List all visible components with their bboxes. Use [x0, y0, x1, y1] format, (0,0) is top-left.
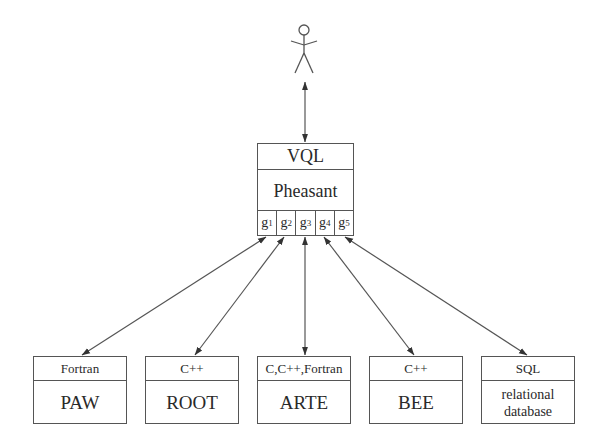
port-g1: g1 — [258, 211, 277, 235]
backend-bee: C++ BEE — [369, 356, 463, 424]
backend-language: C,C++,Fortran — [258, 357, 350, 381]
backend-language: SQL — [482, 357, 574, 381]
backend-root: C++ ROOT — [145, 356, 239, 424]
backend-name: relational database — [482, 381, 574, 424]
backend-language: Fortran — [34, 357, 126, 381]
arrow-g4-bee — [324, 237, 414, 355]
port-g5: g5 — [335, 211, 353, 235]
backend-language: C++ — [370, 357, 462, 381]
backend-language: C++ — [146, 357, 238, 381]
port-g2: g2 — [277, 211, 296, 235]
backend-name: BEE — [370, 381, 462, 424]
stick-figure-icon — [291, 25, 317, 73]
pheasant-header-vql: VQL — [258, 144, 353, 170]
port-g4: g4 — [316, 211, 335, 235]
pheasant-ports-row: g1 g2 g3 g4 g5 — [258, 210, 353, 235]
arrow-g1-paw — [82, 237, 266, 355]
arrow-g5-sql — [345, 237, 527, 355]
port-g3: g3 — [296, 211, 315, 235]
backend-name: PAW — [34, 381, 126, 424]
backend-paw: Fortran PAW — [33, 356, 127, 424]
pheasant-box: VQL Pheasant g1 g2 g3 g4 g5 — [257, 143, 354, 236]
backend-name: ROOT — [146, 381, 238, 424]
backend-name: ARTE — [258, 381, 350, 424]
backend-relational-database: SQL relational database — [481, 356, 575, 424]
pheasant-name: Pheasant — [258, 170, 353, 212]
architecture-diagram: VQL Pheasant g1 g2 g3 g4 g5 Fortran PAW … — [0, 0, 605, 446]
backend-arte: C,C++,Fortran ARTE — [257, 356, 351, 424]
